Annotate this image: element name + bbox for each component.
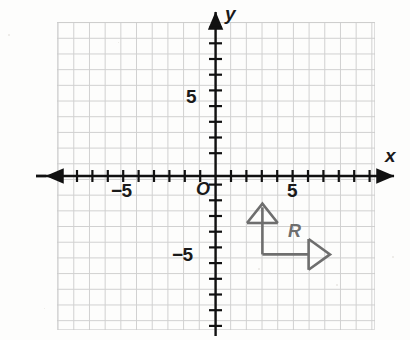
x-tick-label-5: 5	[287, 181, 297, 200]
x-tick-label-neg5: −5	[111, 181, 132, 200]
y-tick-label-5: 5	[186, 87, 196, 106]
coordinate-plane-figure: y x O −5 5 5 −5 R	[0, 0, 410, 340]
y-axis	[209, 12, 222, 336]
x-axis-label: x	[385, 146, 396, 165]
y-axis-label: y	[225, 4, 236, 23]
shape-label-R: R	[288, 222, 301, 240]
plot-svg	[0, 0, 410, 340]
y-tick-label-neg5: −5	[172, 245, 193, 264]
origin-label: O	[196, 180, 210, 198]
